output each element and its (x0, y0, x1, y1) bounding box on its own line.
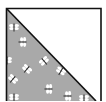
half-square-triangle-block (0, 0, 106, 101)
dragonfly-icon (79, 95, 89, 102)
quilt-block (0, 0, 106, 101)
